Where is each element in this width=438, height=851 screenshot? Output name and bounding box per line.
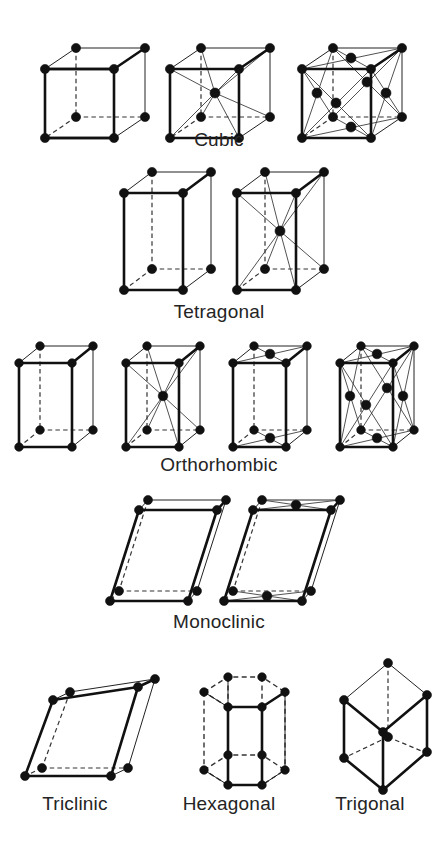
row-label-hexagonal: Hexagonal: [183, 793, 276, 814]
face-center-atom: [372, 349, 382, 359]
base-face-diagonals: [233, 346, 307, 447]
cell-tetragonal-primitive: [119, 167, 215, 294]
cell-cubic-body-centered: [165, 43, 274, 142]
row-label-triclinic: Triclinic: [42, 793, 107, 814]
row-label-monoclinic: Monoclinic: [173, 611, 265, 632]
face-center-atom: [312, 88, 322, 98]
face-center-atom: [346, 122, 356, 132]
face-center-atom: [361, 400, 371, 410]
bravais-lattice-figure: Cubic: [0, 0, 438, 851]
cell-hexagonal-primitive: [200, 673, 290, 790]
row-label-trigonal: Trigonal: [335, 793, 405, 814]
cell-triclinic-primitive: [21, 675, 160, 781]
tetragonal-row: Tetragonal: [119, 167, 328, 322]
cell-trigonal-primitive: [340, 659, 432, 795]
monoclinic-row: Monoclinic: [106, 496, 345, 633]
row-label-orthorhombic: Orthorhombic: [160, 454, 278, 475]
face-center-atom: [345, 391, 355, 401]
lattice-diagram-svg: Cubic: [0, 0, 438, 851]
face-center-atom: [362, 77, 372, 87]
cell-orthorhombic-primitive: [15, 342, 98, 452]
orthorhombic-row: Orthorhombic: [15, 342, 419, 475]
base-center-atom-bottom: [262, 591, 272, 601]
cell-monoclinic-primitive: [106, 496, 231, 606]
cell-monoclinic-base-centered: [220, 496, 345, 606]
row-label-cubic: Cubic: [194, 129, 244, 150]
base-center-atom-top: [265, 349, 275, 359]
cell-orthorhombic-face-centered: [336, 342, 419, 452]
face-center-atom: [372, 433, 382, 443]
body-center-atom: [210, 88, 220, 98]
cell-orthorhombic-body-centered: [122, 342, 205, 452]
base-center-atom-bottom: [265, 433, 275, 443]
body-center-atom: [158, 391, 168, 401]
cubic-row: Cubic: [40, 43, 406, 150]
row-label-tetragonal: Tetragonal: [174, 301, 265, 322]
body-center-atom: [275, 226, 285, 236]
face-center-atom: [331, 98, 341, 108]
face-center-atom: [398, 391, 408, 401]
cell-orthorhombic-base-centered: [229, 342, 312, 452]
hex-prism-outline: [204, 677, 285, 785]
base-center-atom-top: [291, 500, 301, 510]
face-center-atom: [382, 383, 392, 393]
cell-tetragonal-body-centered: [232, 167, 328, 294]
cell-cubic-face-centered: [297, 43, 406, 142]
bottom-row: Triclinic Hexagonal Trigonal: [21, 659, 432, 815]
face-center-atom: [381, 88, 391, 98]
face-center-atom: [346, 53, 356, 63]
cell-cubic-primitive: [40, 43, 149, 142]
